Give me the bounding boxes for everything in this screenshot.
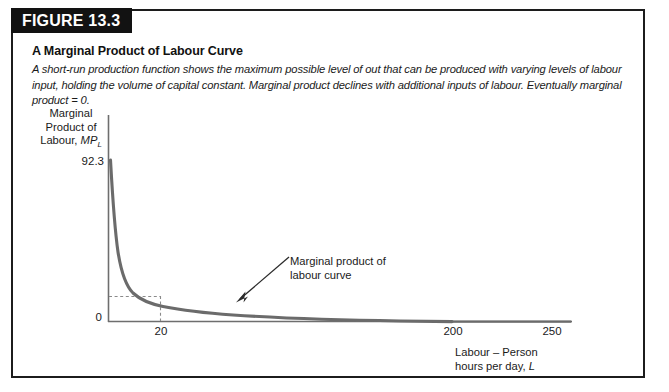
x-axis-label-line2: hours per day, [455, 360, 529, 372]
y-tick-label-0: 0 [76, 311, 102, 323]
curve-annotation-line1: Marginal product of [290, 255, 386, 267]
y-tick-label-92-3: 92.3 [68, 155, 104, 167]
figure-page: FIGURE 13.3 A Marginal Product of Labour… [0, 0, 669, 392]
curve-annotation-label: Marginal product of labour curve [290, 254, 450, 282]
x-axis-label: Labour – Person hours per day, L [455, 345, 615, 373]
figure-title: A Marginal Product of Labour Curve [32, 44, 243, 58]
x-tick-label-250: 250 [533, 325, 571, 337]
y-axis-label-line2: Product of [46, 121, 97, 133]
y-axis-label: Marginal Product of Labour, MPL [36, 107, 106, 152]
figure-number-label: FIGURE 13.3 [22, 13, 120, 29]
curve-annotation-line2: labour curve [290, 269, 352, 281]
y-axis-label-symbol: MP [81, 134, 98, 146]
y-axis-label-line3: Labour, [40, 134, 80, 146]
x-tick-label-20: 20 [144, 325, 178, 337]
x-axis-label-line1: Labour – Person [455, 346, 538, 358]
y-axis-label-subscript: L [97, 140, 101, 149]
x-tick-label-200: 200 [434, 325, 472, 337]
figure-number-bar: FIGURE 13.3 [11, 8, 132, 33]
x-axis-label-symbol: L [529, 360, 535, 372]
y-axis-label-line1: Marginal [50, 107, 93, 119]
figure-caption: A short-run production function shows th… [32, 62, 632, 109]
